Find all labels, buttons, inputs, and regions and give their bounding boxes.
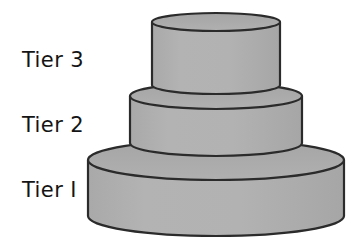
tier-3-top-surface	[152, 13, 280, 31]
tier-3-shape	[152, 13, 280, 94]
tier-1-label: Tier I	[22, 180, 77, 201]
cake-diagram: Tier 3 Tier 2 Tier I	[0, 0, 358, 244]
tier-3-label: Tier 3	[22, 50, 84, 71]
tier-2-label: Tier 2	[22, 115, 84, 136]
tier-3-body	[152, 22, 280, 94]
